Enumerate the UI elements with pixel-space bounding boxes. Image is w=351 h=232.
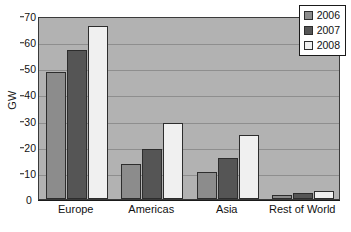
bar [142, 149, 162, 199]
y-axis-tick-mark [20, 43, 24, 44]
y-axis-tick-label: 20 [24, 142, 36, 153]
bar [88, 26, 108, 199]
y-axis-tick-label: 40 [24, 90, 36, 101]
x-axis-tick-label: Americas [128, 203, 174, 216]
bar [218, 158, 238, 199]
bar [121, 164, 141, 199]
y-axis-tick-mark [20, 147, 24, 148]
legend-swatch-icon [304, 41, 313, 50]
bar-group [39, 18, 115, 199]
bar [197, 172, 217, 199]
bar-group [115, 18, 191, 199]
legend-swatch-icon [304, 11, 313, 20]
bar [239, 135, 259, 199]
y-axis-tick-mark [20, 121, 24, 122]
y-axis-tick-labels: 10203040506070 [18, 17, 36, 200]
y-axis-tick-mark [20, 95, 24, 96]
bar [293, 193, 313, 199]
bar-group [190, 18, 266, 199]
y-axis-tick-mark [20, 173, 24, 174]
legend-item-2007[interactable]: 2007 [304, 24, 340, 37]
plot-area [38, 17, 340, 200]
y-axis-tick-mark [20, 69, 24, 70]
legend-item-label: 2008 [317, 40, 340, 51]
bar [314, 191, 334, 199]
legend-item-2006[interactable]: 2006 [304, 9, 340, 22]
y-axis-tick-label: 50 [24, 64, 36, 75]
bar [272, 195, 292, 199]
y-axis-tick-label: 70 [24, 12, 36, 23]
legend[interactable]: 200620072008 [299, 5, 346, 56]
legend-swatch-icon [304, 26, 313, 35]
legend-item-label: 2007 [317, 25, 340, 36]
y-axis-title-text: GW [6, 90, 18, 110]
legend-item-2008[interactable]: 2008 [304, 39, 340, 52]
bars-layer [39, 18, 339, 199]
y-axis-tick-label: 60 [24, 38, 36, 49]
y-axis-tick-mark [20, 17, 24, 18]
x-axis-tick-label: Rest of World [269, 203, 335, 216]
x-axis-tick-labels: EuropeAmericasAsiaRest of World [38, 203, 340, 223]
y-axis-tick-label: 30 [24, 116, 36, 127]
y-axis-tick-label: 10 [24, 169, 36, 180]
x-axis-line [38, 200, 340, 201]
bar [163, 123, 183, 199]
x-axis-tick-label: Asia [216, 203, 237, 216]
bar-chart: GW 10203040506070 0 EuropeAmericasAsiaRe… [0, 0, 351, 232]
legend-item-label: 2006 [317, 10, 340, 21]
bar [46, 72, 66, 199]
bar [67, 50, 87, 199]
y-axis-zero-label: 0 [26, 195, 32, 206]
x-axis-tick-label: Europe [58, 203, 93, 216]
